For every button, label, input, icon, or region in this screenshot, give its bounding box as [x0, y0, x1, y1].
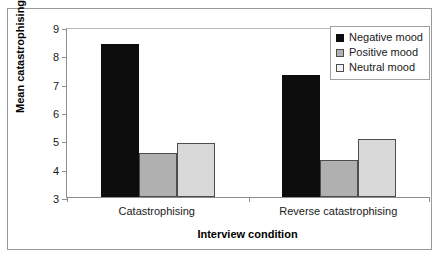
- legend-item-label: Neutral mood: [349, 62, 415, 73]
- y-axis-tick-label: 6: [53, 109, 59, 120]
- y-axis-tick-label: 9: [53, 24, 59, 35]
- x-axis-category-label: Catastrophising: [119, 205, 195, 217]
- chart-legend: Negative moodPositive moodNeutral mood: [330, 26, 430, 80]
- x-axis-tick: [249, 197, 250, 202]
- y-axis-tick-label: 5: [53, 137, 59, 148]
- y-axis-title: Mean catastrophising steps: [14, 0, 26, 113]
- legend-item: Positive mood: [336, 45, 423, 60]
- bar: [320, 160, 358, 197]
- legend-item: Negative mood: [336, 30, 423, 45]
- x-axis-category-label: Reverse catastrophising: [279, 205, 397, 217]
- y-axis-tick-label: 4: [53, 165, 59, 176]
- bar: [139, 153, 177, 197]
- bar: [358, 139, 396, 197]
- bar: [282, 75, 320, 197]
- legend-swatch-icon: [336, 34, 344, 42]
- x-axis-tick: [429, 197, 430, 202]
- legend-swatch-icon: [336, 64, 344, 72]
- legend-swatch-icon: [336, 49, 344, 57]
- legend-item: Neutral mood: [336, 60, 423, 75]
- bar: [101, 44, 139, 197]
- x-axis-title: Interview condition: [66, 228, 429, 240]
- legend-item-label: Positive mood: [349, 47, 418, 58]
- bar: [177, 143, 215, 197]
- chart-figure: Mean catastrophising steps 3456789 Catas…: [0, 0, 447, 268]
- legend-item-label: Negative mood: [349, 32, 423, 43]
- x-axis-tick: [67, 197, 68, 202]
- y-axis-tick-label: 8: [53, 52, 59, 63]
- y-axis-tick-label: 3: [53, 194, 59, 205]
- y-axis-tick-label: 7: [53, 80, 59, 91]
